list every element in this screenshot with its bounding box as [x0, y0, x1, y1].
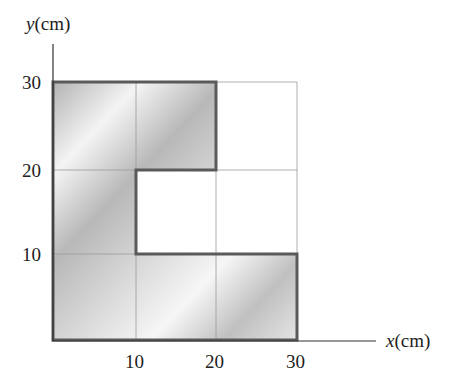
plate-region [53, 82, 297, 340]
figure-canvas: 30 20 10 10 20 30 y(cm) x(cm) [0, 0, 462, 384]
plate-fill [53, 82, 297, 340]
y-tick-20: 20 [22, 160, 41, 181]
x-axis-title: x(cm) [385, 330, 430, 352]
y-axis-unit: (cm) [34, 13, 70, 35]
x-tick-20: 20 [205, 351, 224, 372]
y-tick-10: 10 [22, 244, 41, 265]
y-axis-title: y(cm) [24, 13, 70, 35]
x-axis-unit: (cm) [394, 330, 430, 352]
y-axis-var: y [24, 13, 35, 34]
x-tick-10: 10 [125, 351, 144, 372]
y-tick-30: 30 [22, 72, 41, 93]
x-tick-30: 30 [286, 351, 305, 372]
